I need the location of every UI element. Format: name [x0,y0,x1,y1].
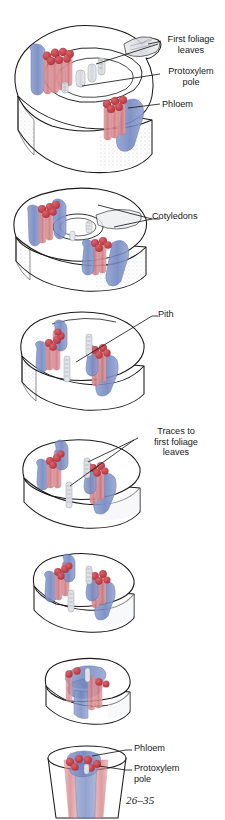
panel-cotyledon-node: Cotyledons [0,185,225,300]
label-traces-to-first-foliage-leaves: Traces to first foliage leaves [136,426,216,458]
panel-shoot-apex: First foliage leaves Protoxylem pole Phl… [0,0,225,185]
label-pith: Pith [158,309,218,320]
label-first-foliage-leaves: First foliage leaves [160,34,222,55]
vascular-bundle-upper-left [28,199,67,246]
panel-mid-hypocotyl: Traces to first foliage leaves [0,420,225,540]
panel-transition-zone [0,650,225,740]
panel-lower-hypocotyl [0,540,225,650]
label-cotyledons: Cotyledons [152,211,222,222]
seedling-vascular-transition-figure: First foliage leaves Protoxylem pole Phl… [0,0,225,820]
label-phloem-root: Phloem [134,743,204,754]
figure-number: 26–35 [126,794,155,806]
panel-upper-hypocotyl: Pith [0,300,225,420]
label-protoxylem-pole: Protoxylem pole [160,66,222,87]
label-protoxylem-pole-root: Protoxylem pole [134,763,208,784]
label-phloem: Phloem [162,99,222,110]
panel-root: Phloem Protoxylem pole 26–35 [0,740,225,820]
root-vascular-cylinder [64,751,108,818]
